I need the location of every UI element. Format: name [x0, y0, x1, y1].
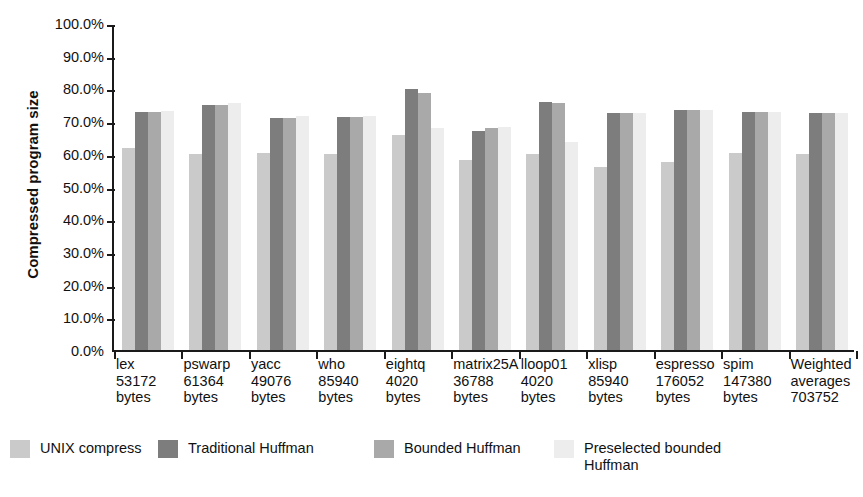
- bar: [350, 117, 363, 350]
- bar: [620, 113, 633, 350]
- bar: [296, 116, 309, 350]
- legend-label: UNIX compress: [40, 440, 142, 457]
- legend-item[interactable]: UNIX compress: [10, 440, 142, 458]
- bar: [228, 103, 241, 350]
- bar-group: [316, 25, 383, 350]
- y-axis-tick-label: 30.0%: [28, 246, 104, 260]
- bar-chart: Compressed program size 100.0%90.0%80.0%…: [0, 0, 863, 497]
- bar: [472, 131, 485, 350]
- bar-group: [519, 25, 586, 350]
- y-axis-tick-mark: [107, 123, 115, 125]
- bar: [122, 148, 135, 350]
- bar: [661, 162, 674, 350]
- y-axis-tick-mark: [107, 287, 115, 289]
- bar: [674, 110, 687, 350]
- bar: [565, 142, 578, 350]
- legend-label: Traditional Huffman: [188, 440, 314, 457]
- bar: [215, 105, 228, 350]
- y-axis-tick-label: 50.0%: [28, 181, 104, 195]
- bar: [189, 154, 202, 350]
- bar: [363, 116, 376, 350]
- bar-group: [384, 25, 451, 350]
- bar: [418, 93, 431, 350]
- y-axis-tick-label: 0.0%: [28, 344, 104, 358]
- bar: [633, 113, 646, 350]
- bar: [526, 154, 539, 350]
- y-axis-tick-label: 70.0%: [28, 115, 104, 129]
- bar: [405, 89, 418, 350]
- bar: [161, 111, 174, 350]
- y-axis-tick-mark: [107, 156, 115, 158]
- bar: [148, 112, 161, 350]
- bar: [594, 167, 607, 350]
- y-axis-tick-label: 10.0%: [28, 311, 104, 325]
- bar: [431, 128, 444, 350]
- bar: [607, 113, 620, 350]
- bar: [337, 117, 350, 350]
- plot-area: [112, 25, 854, 352]
- legend-label: Preselected bounded Huffman: [584, 440, 734, 474]
- y-axis-tick-labels: 100.0%90.0%80.0%70.0%60.0%50.0%40.0%30.0…: [28, 0, 104, 497]
- bar: [835, 113, 848, 350]
- legend-swatch: [554, 440, 574, 458]
- bar: [485, 128, 498, 350]
- bar: [700, 110, 713, 350]
- bar: [768, 112, 781, 350]
- y-axis-tick-label: 40.0%: [28, 213, 104, 227]
- legend-item[interactable]: Traditional Huffman: [158, 440, 314, 458]
- legend-swatch: [374, 440, 394, 458]
- bar-group: [249, 25, 316, 350]
- bar: [729, 153, 742, 350]
- y-axis-tick-label: 60.0%: [28, 148, 104, 162]
- bar-group: [114, 25, 181, 350]
- x-axis-category-label: Weightedaverages703752: [791, 356, 863, 406]
- bar: [202, 105, 215, 350]
- y-axis-tick-label: 80.0%: [28, 82, 104, 96]
- x-axis-category-label-line: Weighted: [791, 356, 863, 373]
- y-axis-tick-label: 20.0%: [28, 279, 104, 293]
- bar: [459, 160, 472, 350]
- y-axis-tick-mark: [107, 319, 115, 321]
- legend-swatch: [10, 440, 30, 458]
- bar: [270, 118, 283, 350]
- x-axis-category-label-line: averages: [791, 373, 863, 390]
- y-axis-tick-mark: [107, 90, 115, 92]
- y-axis-tick-label: 90.0%: [28, 50, 104, 64]
- bar: [809, 113, 822, 350]
- x-axis-category-labels: lex53172bytespswarp61364bytesyacc49076by…: [112, 356, 854, 418]
- y-axis-tick-mark: [107, 189, 115, 191]
- bar: [552, 103, 565, 350]
- bar-group: [721, 25, 788, 350]
- bar: [257, 153, 270, 350]
- y-axis-tick-mark: [107, 58, 115, 60]
- bar: [822, 113, 835, 350]
- y-axis-tick-label: 100.0%: [28, 17, 104, 31]
- bar: [796, 154, 809, 350]
- bar-group: [181, 25, 248, 350]
- bar: [135, 112, 148, 350]
- chart-legend: UNIX compressTraditional HuffmanBounded …: [0, 440, 863, 497]
- bar-groups: [114, 25, 854, 350]
- y-axis-tick-mark: [107, 25, 115, 27]
- legend-label: Bounded Huffman: [404, 440, 521, 457]
- bar: [687, 110, 700, 350]
- bar: [755, 112, 768, 350]
- bar: [742, 112, 755, 350]
- bar-group: [586, 25, 653, 350]
- legend-item[interactable]: Bounded Huffman: [374, 440, 521, 458]
- bar-group: [789, 25, 856, 350]
- x-axis-category-label-line: 703752: [791, 389, 863, 406]
- bar: [539, 102, 552, 350]
- y-axis-tick-mark: [107, 221, 115, 223]
- bar-group: [654, 25, 721, 350]
- bar: [498, 127, 511, 350]
- bar: [392, 135, 405, 350]
- legend-swatch: [158, 440, 178, 458]
- bar: [283, 118, 296, 350]
- y-axis-tick-mark: [107, 254, 115, 256]
- legend-item[interactable]: Preselected bounded Huffman: [554, 440, 734, 474]
- bar-group: [451, 25, 518, 350]
- bar: [324, 154, 337, 350]
